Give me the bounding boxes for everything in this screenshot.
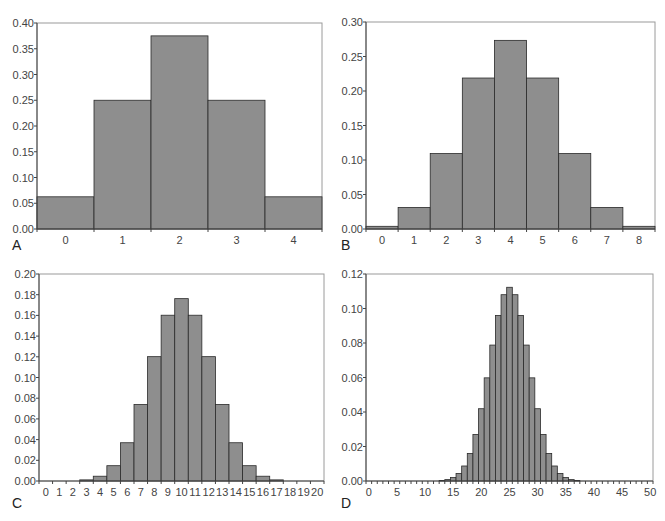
histogram-bar <box>93 476 107 481</box>
y-tick-label: 0.12 <box>342 268 363 280</box>
x-tick-label: 4 <box>290 234 296 246</box>
x-tick-label: 8 <box>636 234 642 246</box>
y-tick-label: 0.06 <box>342 372 363 384</box>
histogram-bar <box>546 453 552 481</box>
panel-a: 0.000.050.100.150.200.250.300.350.400123… <box>12 17 322 253</box>
histogram-bar <box>37 197 94 229</box>
histogram-bar <box>430 154 462 229</box>
x-tick-label: 3 <box>83 486 89 498</box>
histogram-bar <box>202 357 216 481</box>
x-tick-label: 7 <box>604 234 610 246</box>
x-tick-label: 7 <box>138 486 144 498</box>
histogram-bar <box>524 345 530 481</box>
x-tick-label: 8 <box>151 486 157 498</box>
histogram-bar <box>265 197 322 229</box>
y-tick-label: 0.16 <box>15 309 36 321</box>
y-tick-label: 0.05 <box>342 189 363 201</box>
x-tick-label: 12 <box>203 486 215 498</box>
histogram-bar <box>215 404 229 481</box>
panel-letter: D <box>341 495 351 511</box>
x-tick-label: 10 <box>419 486 431 498</box>
y-tick-label: 0.00 <box>15 475 36 487</box>
histogram-bar <box>494 40 526 229</box>
x-tick-label: 2 <box>443 234 449 246</box>
histogram-bar <box>540 434 546 481</box>
x-tick-label: 13 <box>216 486 228 498</box>
histogram-bar <box>462 78 494 229</box>
panel-letter: C <box>12 495 22 511</box>
y-tick-label: 0.08 <box>15 392 36 404</box>
x-tick-label: 2 <box>70 486 76 498</box>
panel-c: 0.000.020.040.060.080.100.120.140.160.18… <box>12 268 324 511</box>
x-tick-label: 35 <box>560 486 572 498</box>
x-tick-label: 11 <box>189 486 200 498</box>
x-tick-label: 4 <box>507 234 513 246</box>
y-tick-label: 0.08 <box>342 337 363 349</box>
y-tick-label: 0.00 <box>342 475 363 487</box>
histogram-bar <box>398 207 430 229</box>
y-tick-label: 0.35 <box>13 43 34 55</box>
y-tick-label: 0.00 <box>13 223 34 235</box>
histogram-bar <box>208 100 265 229</box>
histogram-bar <box>518 315 524 481</box>
histogram-bar <box>563 478 569 481</box>
histogram-bar <box>148 357 162 481</box>
x-tick-label: 10 <box>175 486 187 498</box>
x-tick-label: 5 <box>394 486 400 498</box>
histogram-bar <box>552 466 558 481</box>
x-tick-label: 19 <box>298 486 310 498</box>
y-tick-label: 0.04 <box>342 406 363 418</box>
x-tick-label: 1 <box>411 234 417 246</box>
x-tick-label: 3 <box>475 234 481 246</box>
histogram-bar <box>484 378 490 481</box>
y-tick-label: 0.18 <box>15 289 36 301</box>
y-tick-label: 0.10 <box>13 172 34 184</box>
histogram-bar <box>527 78 559 229</box>
y-tick-label: 0.14 <box>15 330 36 342</box>
x-tick-label: 20 <box>311 486 323 498</box>
x-tick-label: 5 <box>111 486 117 498</box>
x-tick-label: 50 <box>644 486 656 498</box>
y-tick-label: 0.12 <box>15 351 36 363</box>
panel-letter: B <box>341 237 350 253</box>
x-tick-label: 14 <box>230 486 242 498</box>
histogram-bar <box>256 476 270 481</box>
histogram-bar <box>450 478 456 481</box>
y-tick-label: 0.25 <box>13 94 34 106</box>
histogram-bar <box>134 404 148 481</box>
histogram-bar <box>243 466 257 481</box>
panel-letter: A <box>12 237 22 253</box>
x-tick-label: 0 <box>366 486 372 498</box>
y-tick-label: 0.30 <box>342 16 363 28</box>
x-tick-label: 16 <box>257 486 269 498</box>
histogram-bar <box>175 299 189 481</box>
histogram-bar <box>591 207 623 229</box>
y-tick-label: 0.02 <box>15 454 36 466</box>
x-tick-label: 30 <box>532 486 544 498</box>
histogram-bar <box>229 443 243 481</box>
y-tick-label: 0.20 <box>13 120 34 132</box>
x-tick-label: 1 <box>119 234 125 246</box>
histogram-bar <box>467 453 473 481</box>
y-tick-label: 0.00 <box>342 223 363 235</box>
x-tick-label: 15 <box>447 486 459 498</box>
x-tick-label: 9 <box>165 486 171 498</box>
x-tick-label: 2 <box>176 234 182 246</box>
x-tick-label: 45 <box>616 486 628 498</box>
histogram-bar <box>557 473 563 481</box>
y-tick-label: 0.15 <box>13 146 34 158</box>
x-tick-label: 3 <box>233 234 239 246</box>
histogram-bar <box>495 315 501 481</box>
y-tick-label: 0.40 <box>13 17 34 29</box>
y-tick-label: 0.15 <box>342 120 363 132</box>
x-tick-label: 18 <box>284 486 296 498</box>
histogram-bar <box>120 443 134 481</box>
histogram-bar <box>559 154 591 229</box>
x-tick-label: 0 <box>62 234 68 246</box>
panel-d: 0.000.020.040.060.080.100.12051015202530… <box>341 268 656 511</box>
y-tick-label: 0.04 <box>15 434 36 446</box>
histogram-bar <box>462 466 468 481</box>
histogram-bar <box>512 295 518 481</box>
histogram-bar <box>456 473 462 481</box>
y-tick-label: 0.10 <box>342 154 363 166</box>
